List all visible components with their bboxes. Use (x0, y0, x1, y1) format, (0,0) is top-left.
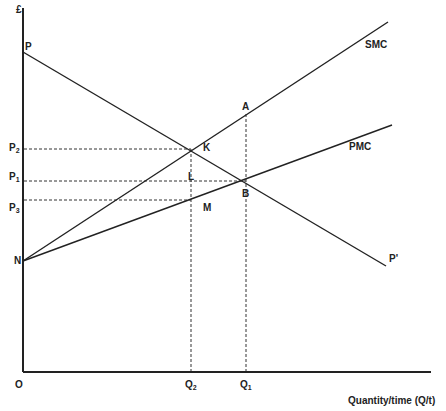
externality-diagram (0, 0, 446, 411)
price-label-p2: P2 (9, 143, 20, 154)
point-label-m: M (203, 203, 211, 213)
point-label-a: A (242, 102, 249, 112)
x-axis-title: Quantity/time (Q/t) (348, 396, 435, 406)
point-label-p: P (25, 42, 32, 52)
curve-label-smc: SMC (365, 40, 387, 50)
q1-main: Q (240, 379, 248, 390)
demand-curve-pp (23, 52, 386, 266)
p2-sub: 2 (16, 147, 20, 154)
price-label-p3: P3 (9, 203, 20, 214)
point-label-l: L (188, 172, 194, 182)
curve-label-pmc: PMC (349, 142, 371, 152)
p1-sub: 1 (16, 176, 20, 183)
p2-main: P (9, 142, 16, 153)
p3-sub: 3 (16, 207, 20, 214)
quantity-label-q2: Q2 (185, 380, 197, 391)
q2-main: Q (185, 379, 193, 390)
p1-main: P (9, 171, 16, 182)
price-label-p1: P1 (9, 172, 20, 183)
point-label-k: K (203, 143, 210, 153)
point-label-b: B (242, 189, 249, 199)
p3-main: P (9, 202, 16, 213)
point-label-n: N (14, 256, 21, 266)
q2-sub: 2 (193, 384, 197, 391)
q1-sub: 1 (248, 384, 252, 391)
origin-label: O (15, 380, 23, 390)
quantity-label-q1: Q1 (240, 380, 252, 391)
y-axis-label: £ (16, 5, 22, 15)
curve-label-p-prime: P' (389, 254, 398, 264)
